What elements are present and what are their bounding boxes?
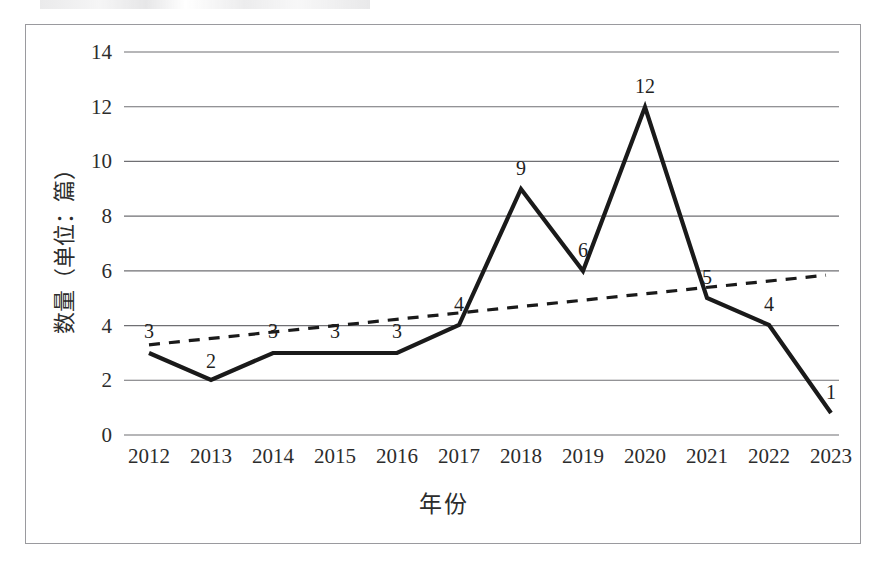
ytick-label-8: 8: [72, 206, 112, 227]
ytick-label-10: 10: [72, 151, 112, 172]
data-label-2016: 3: [380, 321, 414, 341]
xtick-label-2013: 2013: [176, 446, 246, 467]
data-label-2019: 6: [566, 240, 600, 260]
xtick-label-2018: 2018: [486, 446, 556, 467]
ytick-label-2: 2: [72, 370, 112, 391]
ytick-label-4: 4: [72, 316, 112, 337]
data-series-line: [149, 107, 831, 413]
scan-artifact: [40, 0, 370, 9]
gridlines: [124, 52, 839, 435]
trendline-series: [149, 275, 826, 345]
xtick-label-2017: 2017: [424, 446, 494, 467]
xtick-label-2021: 2021: [672, 446, 742, 467]
xtick-label-2023: 2023: [796, 446, 866, 467]
data-label-2023: 1: [814, 382, 848, 402]
ytick-label-0: 0: [72, 425, 112, 446]
data-label-2014: 3: [256, 321, 290, 341]
xtick-label-2012: 2012: [114, 446, 184, 467]
data-label-2013: 2: [194, 351, 228, 371]
xtick-label-2016: 2016: [362, 446, 432, 467]
ytick-label-12: 12: [72, 97, 112, 118]
ytick-label-6: 6: [72, 261, 112, 282]
data-label-2012: 3: [132, 321, 166, 341]
data-label-2022: 4: [752, 294, 786, 314]
data-label-2021: 5: [690, 267, 724, 287]
data-label-2018: 9: [504, 158, 538, 178]
xtick-label-2020: 2020: [610, 446, 680, 467]
x-axis-title: 年份: [344, 485, 544, 519]
data-label-2017: 4: [442, 294, 476, 314]
ytick-label-14: 14: [72, 42, 112, 63]
y-axis-title: 数量（单位：篇）: [46, 146, 78, 346]
chart-frame: 14 12 10 8 6 4 2 0 数量（单位：篇） 2012 2013 20…: [25, 24, 861, 544]
xtick-label-2019: 2019: [548, 446, 618, 467]
xtick-label-2014: 2014: [238, 446, 308, 467]
data-label-2020: 12: [628, 76, 662, 96]
xtick-label-2015: 2015: [300, 446, 370, 467]
xtick-label-2022: 2022: [734, 446, 804, 467]
data-label-2015: 3: [318, 321, 352, 341]
